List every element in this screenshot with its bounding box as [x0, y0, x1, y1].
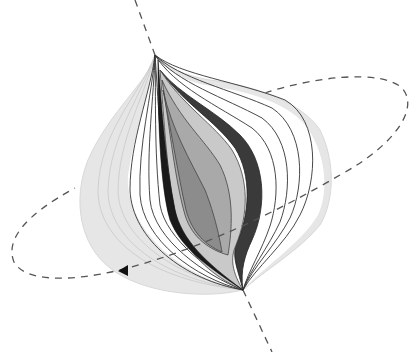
axis-top-dashed [135, 0, 155, 55]
diagram-canvas [0, 0, 419, 352]
spindle-diagram [0, 0, 419, 352]
axis-bottom-dashed [243, 290, 272, 352]
